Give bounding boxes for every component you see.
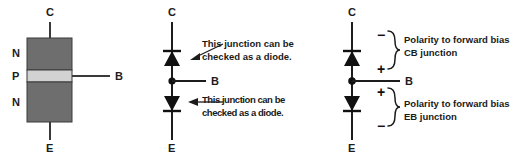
cb-note-arrow-icon — [190, 53, 200, 60]
structure-collector-label: C — [46, 7, 54, 18]
eb-bias-note-line1: Polarity to forward bias — [404, 98, 510, 111]
n-region-collector — [27, 38, 72, 70]
eb-junction-note-line1: This junction can be — [202, 94, 285, 107]
polarity-collector-label: C — [348, 7, 356, 18]
eb-diode-triangle-icon — [344, 96, 360, 111]
cb-junction-note-line1: This junction can be — [202, 38, 294, 51]
p-region-base — [27, 70, 72, 82]
eb-bias-note-line2: EB junction — [404, 111, 510, 124]
two-diode-equivalent-panel: C E B This junction can be checked as a … — [150, 0, 322, 165]
eb-junction-note: This junction can be checked as a diode. — [202, 94, 285, 119]
eb-note-arrow-icon — [188, 98, 198, 106]
diode-emitter-label: E — [168, 143, 175, 154]
polarity-base-label: B — [405, 76, 413, 87]
structure-base-label: B — [115, 71, 123, 82]
eb-bias-brace-icon — [388, 88, 400, 126]
diode-base-label: B — [211, 76, 219, 87]
npn-block-structure-drawing — [0, 0, 150, 165]
npn-block-structure-panel: C E B N P N — [0, 0, 150, 165]
cb-bias-note: Polarity to forward bias CB junction — [404, 34, 510, 59]
n-region-emitter — [27, 82, 72, 122]
eb-junction-note-line2: checked as a diode. — [202, 107, 285, 120]
cb-bias-note-line1: Polarity to forward bias — [404, 34, 510, 47]
structure-emitter-label: E — [46, 143, 53, 154]
layer-label-n-collector: N — [12, 48, 20, 59]
forward-bias-polarity-drawing — [322, 0, 522, 165]
cb-bias-brace-icon — [388, 31, 400, 69]
cb-junction-note: This junction can be checked as a diode. — [202, 38, 294, 63]
eb-bias-top-sign: + — [377, 85, 385, 99]
forward-bias-polarity-panel: C E B − + + − Polarity to forward bias C… — [322, 0, 522, 165]
polarity-emitter-label: E — [348, 143, 355, 154]
diode-collector-label: C — [168, 7, 176, 18]
eb-bias-bottom-sign: − — [377, 119, 385, 133]
eb-bias-note: Polarity to forward bias EB junction — [404, 98, 510, 123]
cb-diode-triangle-icon — [344, 51, 360, 66]
eb-diode-triangle-icon — [164, 96, 180, 111]
layer-label-n-emitter: N — [12, 97, 20, 108]
cb-bias-note-line2: CB junction — [404, 47, 510, 60]
cb-bias-bottom-sign: + — [377, 62, 385, 76]
two-diode-equivalent-drawing — [150, 0, 322, 165]
transistor-junction-figure: C E B N P N C E — [0, 0, 522, 165]
cb-bias-top-sign: − — [377, 28, 385, 42]
layer-label-p-base: P — [12, 71, 19, 82]
cb-junction-note-line2: checked as a diode. — [202, 51, 294, 64]
cb-diode-triangle-icon — [164, 51, 180, 66]
